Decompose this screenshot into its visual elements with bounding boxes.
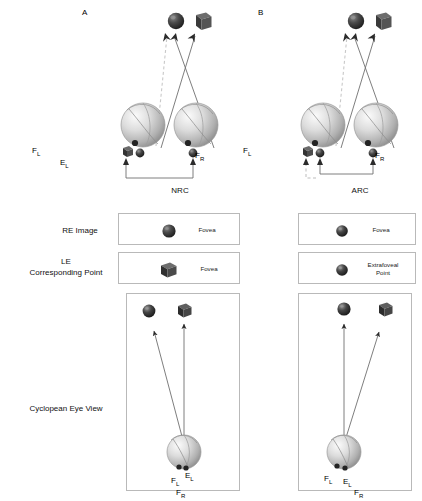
panel-a-label-fl: FL bbox=[32, 146, 40, 157]
le-point-text-arc-line2: Point bbox=[376, 269, 390, 276]
le-point-text-arc: Extrafoveal Point bbox=[355, 261, 411, 276]
cyclopean-diagonal-arrow-nrc bbox=[154, 331, 184, 444]
panel-a-label-el: EL bbox=[60, 158, 69, 169]
right-eye-fovea-marker bbox=[185, 140, 191, 146]
le-point-box-nrc: Fovea bbox=[118, 252, 240, 284]
cyclopean-label-fr-arc: FR bbox=[354, 488, 363, 499]
cyclopean-box-nrc: FL EL FR bbox=[126, 293, 240, 491]
re-image-marker-sphere-arc bbox=[335, 224, 349, 238]
baseline-arrowheads-a bbox=[123, 158, 196, 165]
cyclopean-diagonal-arrow-arc bbox=[344, 332, 379, 444]
left-point-sphere-marker-b bbox=[316, 149, 325, 158]
re-image-box-arc: Fovea bbox=[298, 213, 416, 245]
cyclopean-cube-arc bbox=[379, 303, 393, 317]
left-point-sphere-marker-a bbox=[136, 149, 145, 158]
cyclopean-diagram-nrc bbox=[127, 294, 241, 492]
target-sphere-b bbox=[348, 13, 364, 29]
cyclopean-diagram-arc bbox=[299, 294, 413, 492]
cyclopean-label-el-arc: EL bbox=[343, 477, 352, 488]
cyclopean-label-el-nrc: EL bbox=[185, 471, 194, 482]
left-eyeball-a bbox=[121, 103, 165, 147]
baseline-dashed-stub-b bbox=[306, 163, 318, 178]
re-image-text-arc: Fovea bbox=[357, 226, 405, 234]
row-label-re-image: RE Image bbox=[30, 225, 130, 236]
le-point-marker-sphere-arc bbox=[335, 263, 349, 277]
le-label-line1: LE bbox=[61, 257, 71, 266]
target-cube-b bbox=[376, 13, 392, 31]
right-eyeball-b bbox=[354, 103, 398, 147]
condition-title-nrc: NRC bbox=[140, 186, 220, 195]
cyclopean-eyeball-arc bbox=[327, 435, 361, 471]
le-point-marker-cube-nrc bbox=[159, 261, 179, 279]
baseline-bracket-a bbox=[126, 163, 193, 178]
le-point-text-arc-line1: Extrafoveal bbox=[368, 261, 399, 268]
left-fovea-cube-marker-a bbox=[123, 146, 133, 157]
row-label-cyclopean: Cyclopean Eye View bbox=[6, 403, 126, 414]
baseline-bracket-b bbox=[320, 163, 373, 174]
re-image-marker-sphere-nrc bbox=[161, 223, 177, 239]
condition-title-arc: ARC bbox=[320, 186, 400, 195]
cyclopean-sphere-nrc bbox=[143, 305, 156, 318]
left-eye-fovea-marker bbox=[312, 140, 318, 146]
panel-b-label-fl: FL bbox=[243, 146, 251, 157]
panel-b-eye-diagram bbox=[208, 6, 398, 186]
cyclopean-cube-nrc bbox=[178, 304, 192, 318]
baseline-arrowheads-b bbox=[303, 158, 376, 165]
re-image-text-nrc: Fovea bbox=[185, 226, 229, 234]
cyclopean-sphere-arc bbox=[337, 302, 350, 315]
cyclopean-label-fl-arc: FL bbox=[324, 474, 332, 485]
panel-a-eye-diagram bbox=[28, 6, 213, 186]
le-point-box-arc: Extrafoveal Point bbox=[298, 252, 416, 284]
cyclopean-label-fr-nrc: FR bbox=[176, 488, 185, 499]
re-image-box-nrc: Fovea bbox=[118, 213, 240, 245]
panel-b-label-fr: FR bbox=[375, 151, 384, 162]
le-point-text-nrc: Fovea bbox=[187, 265, 231, 273]
cyclopean-label-fl-nrc: FL bbox=[171, 476, 179, 487]
cyclopean-box-arc: FL EL FR bbox=[298, 293, 412, 491]
target-sphere-a bbox=[168, 13, 184, 29]
le-label-line2: Corresponding Point bbox=[30, 268, 103, 277]
panel-a-label-fr: FR bbox=[195, 151, 204, 162]
left-eyeball-b bbox=[301, 103, 345, 147]
left-eye-fovea-marker bbox=[132, 140, 138, 146]
cyclopean-eyeball-nrc bbox=[167, 435, 201, 471]
right-eye-fovea-marker bbox=[365, 140, 371, 146]
figure-canvas: A bbox=[0, 0, 422, 501]
row-label-le-corresponding-point: LE Corresponding Point bbox=[12, 256, 120, 278]
left-fovea-cube-marker-b bbox=[303, 146, 313, 157]
